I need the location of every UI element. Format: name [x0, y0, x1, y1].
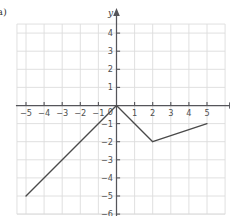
coordinate-plane: −5−4−3−2−1123454321−1−2−3−4−5−60 x y [0, 0, 230, 216]
tick-label: 2 [108, 64, 113, 74]
graph-figure: a) −5−4−3−2−1123454321−1−2−3−4−5−60 x y [0, 0, 230, 216]
tick-label: −1 [92, 108, 104, 118]
tick-label: 5 [204, 108, 209, 118]
tick-label: −3 [56, 108, 68, 118]
tick-label: 3 [168, 108, 173, 118]
tick-label: −6 [101, 209, 113, 216]
tick-label: 1 [108, 82, 113, 92]
tick-label: 3 [108, 46, 113, 56]
tick-label: −4 [101, 173, 113, 183]
tick-label: −5 [101, 191, 113, 201]
tick-label: −2 [101, 137, 113, 147]
tick-marks-and-labels: −5−4−3−2−1123454321−1−2−3−4−5−60 [20, 28, 210, 216]
tick-label: −3 [101, 155, 113, 165]
tick-label: 4 [186, 108, 191, 118]
y-axis-label: y [107, 8, 114, 18]
tick-label: −4 [38, 108, 50, 118]
tick-label: 4 [108, 28, 113, 38]
tick-label: 2 [150, 108, 155, 118]
grid-lines [17, 24, 225, 214]
tick-label: 1 [132, 108, 137, 118]
tick-label: −5 [20, 108, 32, 118]
tick-label: −2 [74, 108, 86, 118]
